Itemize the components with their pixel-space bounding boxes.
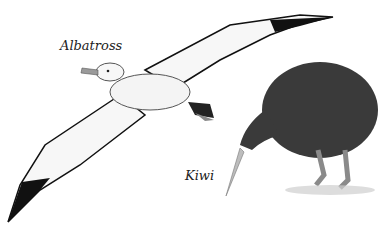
kiwi-drawing <box>226 62 378 196</box>
birds-illustration <box>0 0 387 229</box>
illustration-canvas: Albatross Kiwi <box>0 0 387 229</box>
albatross-label: Albatross <box>60 38 122 53</box>
kiwi-label: Kiwi <box>185 168 214 183</box>
